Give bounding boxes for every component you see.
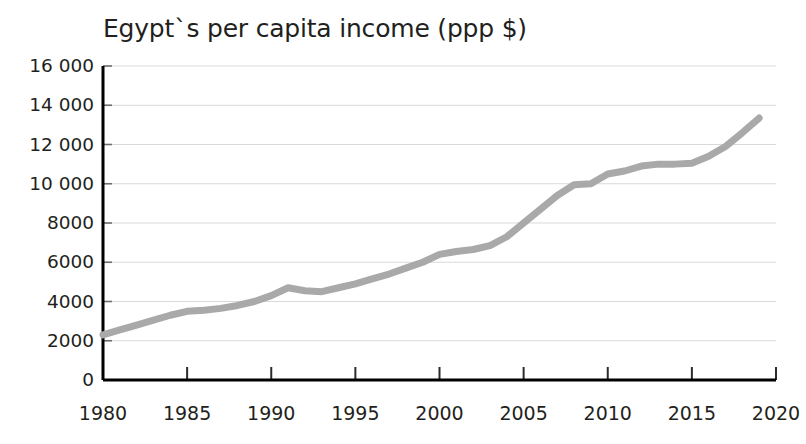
gridlines	[103, 66, 776, 341]
data-series-line	[103, 118, 759, 335]
x-axis-tick-marks	[187, 367, 776, 380]
chart-container: Egypt`s per capita income (ppp $) 020004…	[0, 0, 806, 444]
plot-area	[0, 0, 806, 444]
